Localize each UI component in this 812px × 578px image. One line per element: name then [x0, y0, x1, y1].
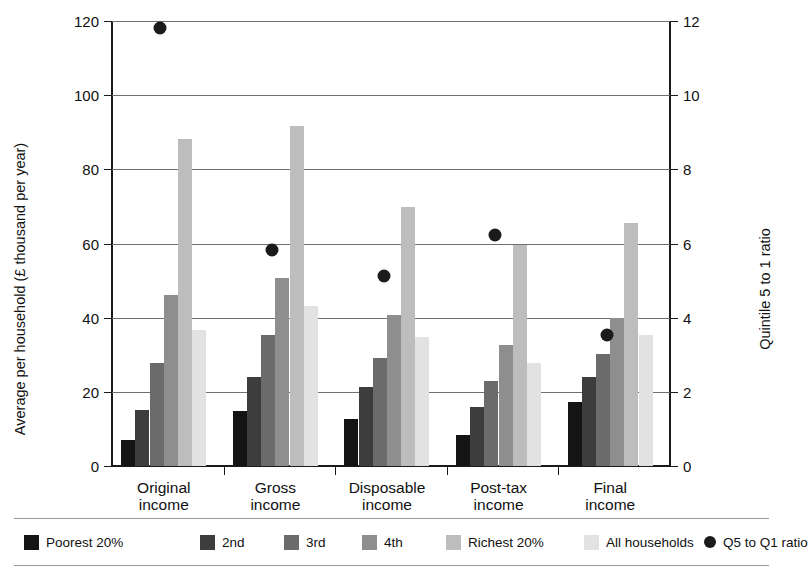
- y-axis-left-tick: [104, 95, 111, 96]
- bar: [499, 345, 513, 466]
- legend-label: 4th: [384, 535, 403, 550]
- y-axis-right-tick-label: 4: [683, 309, 691, 326]
- y-axis-left-tick-label: 80: [82, 161, 99, 178]
- legend-label: Poorest 20%: [46, 535, 123, 550]
- bar: [484, 381, 498, 466]
- legend-item[interactable]: Q5 to Q1 ratio: [704, 535, 808, 550]
- x-axis-category-label: Post-taxincome: [470, 479, 527, 514]
- y-axis-right-tick-label: 8: [683, 161, 691, 178]
- bar: [470, 407, 484, 466]
- bar: [582, 377, 596, 466]
- x-axis-category-label-line2: income: [349, 496, 426, 513]
- legend-label: Q5 to Q1 ratio: [723, 535, 808, 550]
- legend-dot-icon: [704, 536, 716, 548]
- ratio-marker: [600, 329, 613, 342]
- plot-area: 020406080100120 024681012 Originalincome…: [112, 21, 670, 466]
- x-axis-tick: [447, 466, 448, 475]
- legend-label: Richest 20%: [468, 535, 544, 550]
- bar: [247, 377, 261, 466]
- bar: [261, 335, 275, 466]
- ratio-marker: [489, 229, 502, 242]
- bar: [596, 354, 610, 466]
- bar: [387, 315, 401, 466]
- legend-item[interactable]: 4th: [362, 535, 403, 550]
- legend: Poorest 20%2nd3rd4thRichest 20%All house…: [14, 518, 769, 566]
- legend-item[interactable]: Richest 20%: [446, 535, 544, 550]
- legend-item[interactable]: All households: [584, 535, 694, 550]
- legend-swatch-icon: [362, 535, 377, 550]
- legend-item[interactable]: 2nd: [200, 535, 245, 550]
- y-axis-left-tick: [104, 244, 111, 245]
- y-axis-left-tick: [104, 21, 111, 22]
- bar: [639, 335, 653, 466]
- x-axis-category-label: Finalincome: [585, 479, 635, 514]
- y-axis-left-tick: [104, 169, 111, 170]
- y-axis-right-tick-label: 6: [683, 235, 691, 252]
- x-axis-category-label-line1: Final: [585, 479, 635, 496]
- bar: [415, 337, 429, 466]
- y-axis-right-tick: [671, 466, 678, 467]
- ratio-marker: [265, 244, 278, 257]
- x-axis-category-label: Disposableincome: [349, 479, 426, 514]
- y-axis-left-tick-label: 120: [74, 13, 99, 30]
- y-axis-left-title: Average per household (£ thousand per ye…: [12, 143, 28, 435]
- legend-swatch-icon: [584, 535, 599, 550]
- bar-group: [344, 21, 429, 466]
- bar-group: [568, 21, 653, 466]
- y-axis-left-tick: [104, 392, 111, 393]
- bar: [290, 126, 304, 466]
- y-axis-left-tick-label: 40: [82, 309, 99, 326]
- y-axis-right-tick: [671, 318, 678, 319]
- legend-item[interactable]: Poorest 20%: [24, 535, 123, 550]
- y-axis-right-tick-label: 0: [683, 458, 691, 475]
- x-axis-tick: [224, 466, 225, 475]
- y-axis-left-tick-label: 60: [82, 235, 99, 252]
- y-axis-right-title: Quintile 5 to 1 ratio: [757, 228, 773, 350]
- legend-swatch-icon: [284, 535, 299, 550]
- legend-swatch-icon: [24, 535, 39, 550]
- bar: [373, 358, 387, 466]
- bar: [624, 223, 638, 466]
- x-axis-category-label: Originalincome: [137, 479, 190, 514]
- y-axis-left-tick-label: 0: [91, 458, 99, 475]
- legend-swatch-icon: [446, 535, 461, 550]
- bar: [275, 278, 289, 466]
- bar: [304, 306, 318, 466]
- x-axis-category-label-line2: income: [250, 496, 300, 513]
- x-axis-category-label: Grossincome: [250, 479, 300, 514]
- y-axis-right-tick: [671, 244, 678, 245]
- bar: [527, 363, 541, 466]
- x-axis-category-label-line1: Post-tax: [470, 479, 527, 496]
- x-axis-category-label-line2: income: [137, 496, 190, 513]
- legend-item[interactable]: 3rd: [284, 535, 326, 550]
- y-axis-left-title-container: Average per household (£ thousand per ye…: [0, 0, 120, 578]
- bar: [150, 363, 164, 466]
- y-axis-right-tick-label: 2: [683, 383, 691, 400]
- y-axis-right-tick: [671, 392, 678, 393]
- legend-swatch-icon: [200, 535, 215, 550]
- y-axis-left-tick: [104, 318, 111, 319]
- bar: [456, 435, 470, 466]
- y-axis-left-tick-label: 100: [74, 87, 99, 104]
- bar: [610, 318, 624, 466]
- x-axis-category-label-line2: income: [470, 496, 527, 513]
- bar: [359, 387, 373, 466]
- x-axis-tick: [558, 466, 559, 475]
- bar: [513, 245, 527, 466]
- bar-group: [121, 21, 206, 466]
- bar: [121, 440, 135, 466]
- ratio-marker: [154, 21, 167, 34]
- x-axis-category-label-line2: income: [585, 496, 635, 513]
- bar: [233, 411, 247, 466]
- legend-label: 3rd: [306, 535, 326, 550]
- bar: [164, 295, 178, 466]
- ratio-marker: [377, 269, 390, 282]
- y-axis-right-tick: [671, 169, 678, 170]
- legend-label: 2nd: [222, 535, 245, 550]
- y-axis-right-tick-label: 12: [683, 13, 700, 30]
- y-axis-right-tick: [671, 95, 678, 96]
- bar: [568, 402, 582, 466]
- x-axis-category-label-line1: Gross: [250, 479, 300, 496]
- bar: [192, 330, 206, 466]
- x-axis-category-label-line1: Disposable: [349, 479, 426, 496]
